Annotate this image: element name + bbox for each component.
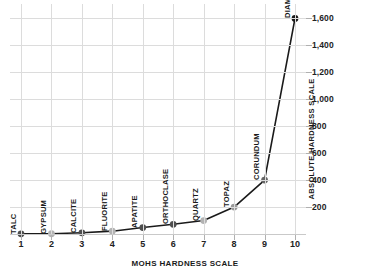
x-axis-tick-label: 9 [262, 239, 267, 249]
gridline-vertical [204, 4, 205, 235]
x-axis-baseline [10, 234, 306, 235]
gridline-horizontal [10, 207, 306, 208]
gridline-horizontal [10, 45, 306, 46]
data-point-label: FLUORITE [100, 192, 109, 232]
x-axis-tick-label: 10 [290, 239, 300, 249]
mohs-hardness-chart: TALCGYPSUMCALCITEFLUORITEAPATITEORTHOCLA… [0, 0, 370, 278]
data-point-label: CORUNDUM [252, 133, 261, 180]
y-axis-tick-label: 1,600 [312, 13, 334, 23]
y-axis-tick-label: 1,200 [312, 67, 334, 77]
gridline-vertical [265, 4, 266, 235]
gridline-vertical [234, 4, 235, 235]
x-axis-tick-label: 4 [110, 239, 115, 249]
gridline-horizontal [10, 72, 306, 73]
gridline-vertical [112, 4, 113, 235]
gridline-vertical [51, 4, 52, 235]
data-point-label: APATITE [130, 195, 139, 228]
gridline-horizontal [10, 18, 306, 19]
hardness-line-series [10, 4, 306, 235]
y-axis-tick-labels: 2004006008001,0001,2001,4001,600 [312, 0, 346, 278]
data-point-label: DIAMOND [283, 0, 292, 18]
gridline-vertical [173, 4, 174, 235]
x-axis-tick-label: 6 [171, 239, 176, 249]
gridline-vertical [143, 4, 144, 235]
data-point-label: QUARTZ [191, 188, 200, 221]
data-point-label: GYPSUM [39, 200, 48, 234]
x-axis-title: MOHS HARDNESS SCALE [0, 259, 370, 268]
data-point-label: TOPAZ [222, 181, 231, 207]
x-axis-tick-label: 8 [232, 239, 237, 249]
x-axis-tick-label: 7 [201, 239, 206, 249]
gridline-horizontal [10, 126, 306, 127]
y-axis-tick-label: 1,400 [312, 40, 334, 50]
x-axis-tick-label: 2 [49, 239, 54, 249]
x-axis-tick-label: 5 [140, 239, 145, 249]
gridline-vertical [295, 4, 296, 235]
data-point-label: TALC [9, 213, 18, 233]
gridline-horizontal [10, 180, 306, 181]
x-axis-tick-label: 3 [79, 239, 84, 249]
data-point-label: CALCITE [69, 198, 78, 232]
plot-area: TALCGYPSUMCALCITEFLUORITEAPATITEORTHOCLA… [10, 4, 306, 235]
y-axis-title: ABSOLUTE HARDNESS SCALE [307, 79, 316, 200]
data-point-label: ORTHOCLASE [161, 169, 170, 224]
gridline-vertical [21, 4, 22, 235]
y-axis-tick-label: 200 [312, 202, 326, 212]
gridline-vertical [82, 4, 83, 235]
gridline-horizontal [10, 99, 306, 100]
x-axis-tick-label: 1 [18, 239, 23, 249]
x-axis-tick-labels: 12345678910 [10, 239, 306, 253]
gridline-horizontal [10, 153, 306, 154]
